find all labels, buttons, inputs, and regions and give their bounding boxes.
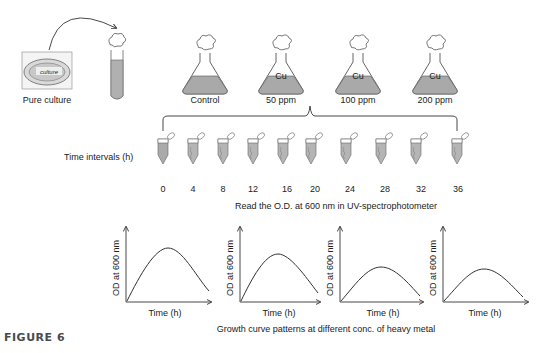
- figure-caption: FIGURE 6: [4, 331, 65, 344]
- experiment-diagram: culture Pure culture Cu Cu Cu Control 50…: [0, 0, 545, 353]
- flask-100ppm: [336, 35, 380, 94]
- svg-text:Time (h): Time (h): [468, 308, 501, 318]
- svg-text:Time (h): Time (h): [366, 308, 399, 318]
- time-value: 24: [345, 184, 355, 194]
- flask-label-50: 50 ppm: [266, 95, 296, 105]
- growth-chart-control: OD at 600 nm Time (h): [111, 227, 211, 318]
- growth-chart-100ppm: OD at 600 nm Time (h): [325, 227, 423, 318]
- svg-text:OD at 600 nm: OD at 600 nm: [325, 240, 335, 296]
- plate-culture-text: culture: [40, 69, 59, 75]
- flask-control: [183, 35, 227, 94]
- time-intervals-label: Time intervals (h): [64, 152, 133, 162]
- svg-text:Time (h): Time (h): [148, 308, 181, 318]
- sample-tubes: [158, 132, 470, 164]
- svg-text:OD at 600 nm: OD at 600 nm: [225, 240, 235, 296]
- test-tube-icon: [109, 33, 126, 99]
- flask-metal-50: Cu: [275, 71, 287, 81]
- time-value: 16: [282, 184, 292, 194]
- read-od-step: Read the O.D. at 600 nm in UV-spectropho…: [235, 201, 437, 211]
- transfer-arrow-icon: [49, 18, 116, 50]
- growth-chart-200ppm: OD at 600 nm Time (h): [428, 227, 528, 318]
- svg-text:OD at 600 nm: OD at 600 nm: [111, 240, 121, 296]
- flask-200ppm: [413, 35, 457, 94]
- time-value: 12: [248, 184, 258, 194]
- growth-chart-50ppm: OD at 600 nm Time (h): [225, 227, 320, 318]
- flask-label-control: Control: [190, 95, 219, 105]
- growth-curves-caption: Growth curve patterns at different conc.…: [217, 324, 435, 334]
- time-value: 32: [416, 184, 426, 194]
- time-value: 28: [380, 184, 390, 194]
- flask-label-100: 100 ppm: [340, 95, 375, 105]
- bracket: [163, 106, 457, 131]
- pure-culture-label: Pure culture: [23, 95, 72, 105]
- time-value: 20: [310, 184, 320, 194]
- time-value: 36: [453, 184, 463, 194]
- petri-dish-icon: culture: [22, 52, 72, 89]
- flask-50ppm: [259, 35, 303, 94]
- flask-label-200: 200 ppm: [417, 95, 452, 105]
- time-value: 4: [190, 184, 195, 194]
- flask-metal-100: Cu: [352, 71, 364, 81]
- time-value: 8: [220, 184, 225, 194]
- time-value: 0: [160, 184, 165, 194]
- flask-metal-200: Cu: [429, 71, 441, 81]
- svg-text:OD at 600 nm: OD at 600 nm: [428, 240, 438, 296]
- svg-text:Time (h): Time (h): [262, 308, 295, 318]
